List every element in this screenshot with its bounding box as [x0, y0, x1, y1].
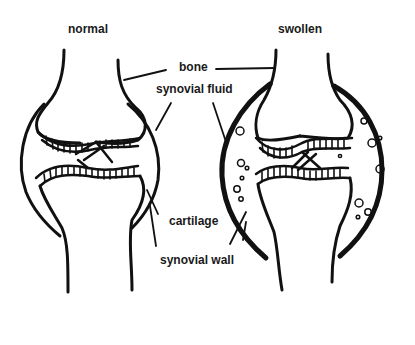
label-cartilage: cartilage: [169, 214, 218, 228]
joint-illustration: [0, 0, 415, 345]
joint-diagram: normal swollen bone synovial fluid carti…: [0, 0, 415, 345]
title-swollen: swollen: [278, 22, 322, 36]
swollen-joint: [222, 50, 384, 290]
label-synovial-fluid: synovial fluid: [156, 82, 233, 96]
normal-joint: [21, 50, 158, 292]
label-bone: bone: [179, 60, 208, 74]
label-synovial-wall: synovial wall: [160, 253, 234, 267]
title-normal: normal: [68, 22, 108, 36]
